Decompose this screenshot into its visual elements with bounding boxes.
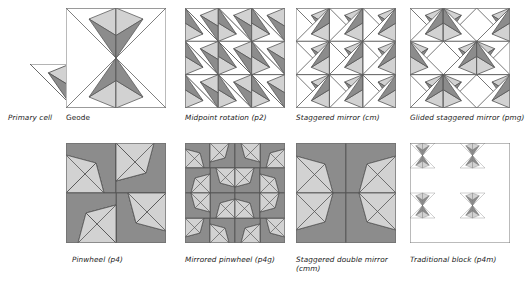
mirrored-pinwheel-svg xyxy=(185,143,285,243)
block-traditional xyxy=(410,143,510,243)
caption-glided-staggered-mirror: Glided staggered mirror (pmg) xyxy=(410,113,529,122)
caption-pinwheel: Pinwheel (p4) xyxy=(72,255,182,264)
block-geode xyxy=(66,8,166,108)
block-mirrored-pinwheel xyxy=(185,143,285,243)
staggered-double-mirror-svg xyxy=(296,143,396,243)
caption-primary-cell: Primary cell xyxy=(8,113,68,122)
pinwheel-svg xyxy=(66,143,166,243)
caption-mirrored-pinwheel: Mirrored pinwheel (p4g) xyxy=(185,255,300,264)
caption-traditional-block: Traditional block (p4m) xyxy=(410,255,525,264)
block-staggered-double-mirror xyxy=(296,143,396,243)
geode-svg xyxy=(66,8,166,108)
primary-cell-svg xyxy=(30,64,70,104)
block-glided-staggered-mirror xyxy=(410,8,510,108)
staggered-mirror-svg xyxy=(296,8,396,108)
traditional-block-svg xyxy=(410,143,510,243)
block-pinwheel xyxy=(66,143,166,243)
caption-geode: Geode xyxy=(66,113,166,122)
glided-staggered-mirror-svg xyxy=(410,8,510,108)
block-midpoint-rotation xyxy=(185,8,285,108)
primary-cell-diagram xyxy=(30,64,70,104)
caption-staggered-double-mirror: Staggered double mirror (cmm) xyxy=(296,255,400,273)
pattern-figure: Primary cell Geode xyxy=(0,0,529,281)
caption-staggered-mirror: Staggered mirror (cm) xyxy=(296,113,406,122)
caption-midpoint-rotation: Midpoint rotation (p2) xyxy=(185,113,295,122)
block-staggered-mirror xyxy=(296,8,396,108)
midpoint-rotation-svg xyxy=(185,8,285,108)
